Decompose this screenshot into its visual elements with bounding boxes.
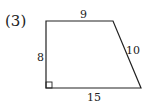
side-label-left: 8	[37, 51, 44, 64]
side-label-bottom: 15	[87, 91, 101, 104]
trapezoid-figure: 9 8 10 15	[0, 0, 149, 107]
side-label-right: 10	[126, 44, 140, 57]
side-label-top: 9	[80, 8, 87, 21]
right-angle-marker	[46, 82, 52, 88]
